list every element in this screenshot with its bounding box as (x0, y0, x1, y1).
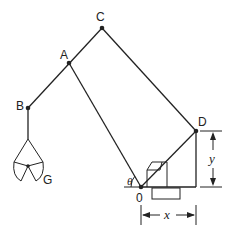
label-b: B (16, 99, 24, 113)
link-a-o (69, 63, 141, 187)
joint-c (100, 26, 105, 31)
label-a: A (60, 48, 68, 62)
link-c-d (102, 28, 196, 131)
label-o: 0 (136, 191, 143, 205)
label-c: C (96, 10, 105, 24)
label-y: y (207, 151, 215, 166)
label-x: x (163, 207, 170, 222)
linkage-diagram: C A B D 0 G θ y x (0, 0, 232, 238)
link-c-b (28, 28, 102, 108)
label-g: G (43, 173, 52, 187)
slider-mechanism (147, 162, 180, 199)
gripper (14, 108, 44, 181)
label-theta: θ (127, 175, 133, 187)
joint-d (194, 129, 199, 134)
label-d: D (198, 115, 207, 129)
link-o-d (141, 131, 196, 187)
